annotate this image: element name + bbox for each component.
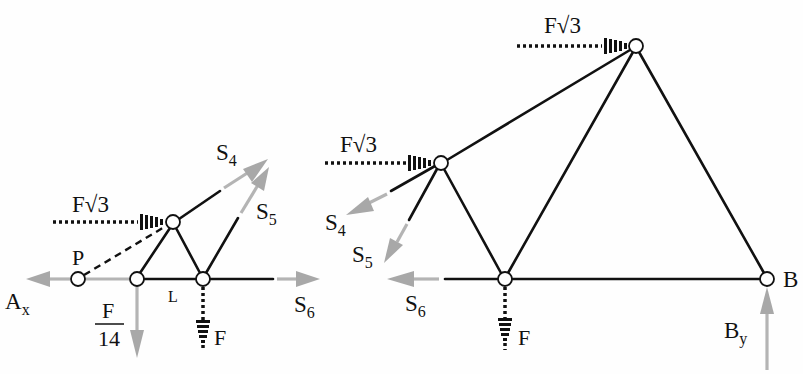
ax-label: Ax: [5, 289, 30, 318]
member-top-to-c: [176, 228, 200, 273]
member-s5-stub-right: [409, 169, 437, 220]
load-label-left: F√3: [72, 192, 109, 217]
f-sqrt3-load-arrow-mid: [325, 155, 431, 171]
node-apex: [629, 39, 643, 53]
f-vertical-label-left: F: [214, 325, 226, 350]
truss-diagram-canvas: F√3 S4 S5 S6 P Ax F 14 L F: [0, 0, 803, 374]
right-free-body-diagram: F√3 F√3 S4 S5 S6 F B By: [325, 13, 798, 370]
load-label-mid: F√3: [340, 132, 377, 157]
node-top-left: [166, 215, 180, 229]
node-mid: [434, 156, 448, 170]
node-c: [196, 272, 210, 286]
s5-label-left: S5: [256, 199, 277, 228]
node-p: [71, 272, 85, 286]
s6-force-arrow-right: [387, 271, 439, 287]
f-vertical-load-arrow-right: [498, 287, 512, 350]
f-over-14-denominator: 14: [98, 326, 120, 351]
load-label-apex: F√3: [544, 13, 581, 38]
ax-reaction-arrow: [26, 271, 70, 287]
f-over-14-numerator: F: [102, 298, 114, 323]
node-a: [130, 272, 144, 286]
by-reaction-arrow: [760, 287, 774, 370]
left-free-body-diagram: F√3 S4 S5 S6 P Ax F 14 L F: [5, 140, 320, 358]
length-l-label: L: [168, 288, 178, 305]
s5-force-arrow-right: [384, 224, 407, 263]
s5-label-right: S5: [352, 242, 373, 271]
point-p-label: P: [72, 245, 84, 270]
f-sqrt3-load-arrow-apex: [517, 38, 627, 54]
s4-label-right: S4: [325, 210, 346, 239]
member-s5-stub-left: [206, 218, 238, 273]
member-s4-stub-left: [179, 191, 220, 219]
node-bottom: [498, 272, 512, 286]
f-vertical-label-right: F: [518, 325, 530, 350]
s4-label-left: S4: [216, 140, 237, 169]
s6-force-arrow-left: [277, 271, 320, 287]
f-vertical-load-arrow-left: [196, 287, 210, 350]
f-over-14-reaction-arrow: [130, 286, 144, 358]
s4-force-arrow-right: [346, 194, 387, 215]
member-apex-to-b: [639, 52, 764, 273]
member-a-to-top: [140, 228, 170, 273]
by-label: By: [724, 318, 747, 348]
s6-label-right: S6: [405, 291, 426, 320]
truss-figure: F√3 S4 S5 S6 P Ax F 14 L F: [0, 0, 803, 374]
node-b: [760, 272, 774, 286]
support-b-label: B: [783, 267, 798, 292]
s6-label-left: S6: [294, 292, 315, 321]
member-mid-to-bottom: [444, 169, 501, 273]
